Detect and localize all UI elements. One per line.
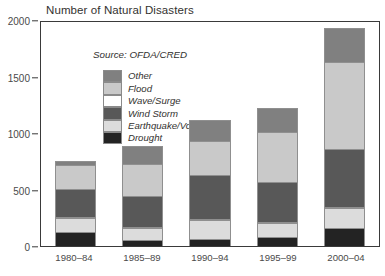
y-axis-tick-label: 2000 [8,16,30,27]
bar-group [176,23,243,247]
bar-segment[interactable] [123,196,162,227]
x-axis-tick-label: 2000–04 [312,252,380,272]
page-title: Number of Natural Disasters [46,4,194,16]
y-axis-tick-mark [32,190,38,191]
bar-segment[interactable] [190,175,229,219]
bar-segment[interactable] [56,189,95,217]
y-axis: 0500100015002000 [0,0,40,276]
bar-segment[interactable] [190,239,229,246]
x-axis-tick-label: 1980–84 [40,252,108,272]
bar-segment[interactable] [325,228,364,246]
bar-segment[interactable] [190,141,229,176]
x-axis: 1980–841985–891990–941995–992000–04 [40,252,380,272]
bar-segment[interactable] [325,29,364,61]
bar-segment[interactable] [123,240,162,246]
bar-segment[interactable] [56,232,95,247]
y-axis-tick-mark [32,77,38,78]
y-axis-tick-mark [32,246,38,247]
bar-segment[interactable] [258,132,297,181]
bar-segment[interactable] [258,237,297,246]
bar-segment[interactable] [325,62,364,149]
y-axis-tick-label: 1000 [8,129,30,140]
x-axis-tick-label: 1990–94 [176,252,244,272]
bar-segment[interactable] [56,218,95,231]
stacked-bar[interactable] [189,120,230,247]
bar-segment[interactable] [190,121,229,141]
bar-segment[interactable] [325,149,364,207]
bars-layer [42,23,379,247]
bar-segment[interactable] [190,220,229,239]
stacked-bar[interactable] [324,28,365,246]
stacked-bar[interactable] [55,161,96,246]
bar-segment[interactable] [56,165,95,189]
bar-segment[interactable] [123,228,162,240]
y-axis-tick-mark [32,20,38,21]
bar-segment[interactable] [258,223,297,238]
bar-segment[interactable] [325,208,364,228]
bar-segment[interactable] [258,109,297,132]
chart-figure: Number of Natural Disasters 050010001500… [0,0,385,276]
bar-segment[interactable] [123,164,162,196]
bar-segment[interactable] [258,182,297,222]
y-axis-tick-label: 0 [24,242,30,253]
x-axis-tick-label: 1985–89 [108,252,176,272]
y-axis-tick-label: 500 [13,185,30,196]
bar-group [244,23,311,247]
stacked-bar[interactable] [257,108,298,247]
bar-group [311,23,378,247]
x-axis-tick-label: 1995–99 [244,252,312,272]
stacked-bar[interactable] [122,146,163,247]
y-axis-tick-label: 1500 [8,72,30,83]
y-axis-tick-mark [32,133,38,134]
bar-group [42,23,109,247]
bar-group [109,23,176,247]
bar-segment[interactable] [123,147,162,164]
